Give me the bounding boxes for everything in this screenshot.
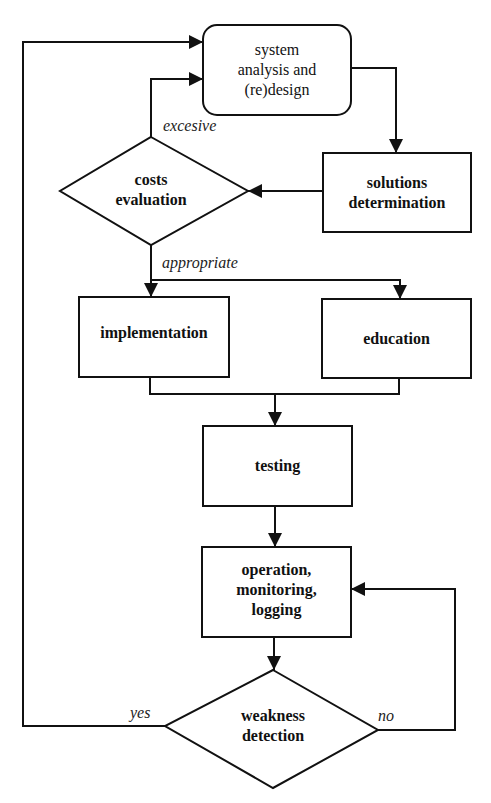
edge-weakness-to-operation-no [351, 589, 455, 730]
label-line: evaluation [115, 190, 186, 210]
label-line: determination [349, 193, 446, 213]
edge-label-excesive: excesive [163, 117, 216, 135]
label-weakness-detection: weakness detection [212, 703, 334, 749]
label-line: testing [255, 456, 300, 476]
edge-label-no: no [378, 707, 394, 725]
label-line: detection [241, 726, 305, 746]
label-line: analysis and [238, 60, 317, 80]
edge-label-appropriate: appropriate [162, 254, 238, 272]
label-education: education [322, 299, 471, 378]
label-line: solutions [349, 173, 446, 193]
label-line: monitoring, [236, 580, 316, 600]
edge-system-to-solutions [351, 68, 396, 153]
label-system-analysis: system analysis and (re)design [203, 25, 351, 115]
label-testing: testing [203, 426, 352, 506]
edge-label-yes: yes [130, 704, 150, 722]
label-line: (re)design [238, 80, 317, 100]
edge-merge-implementation-education [150, 377, 399, 394]
label-costs-evaluation: costs evaluation [90, 165, 212, 215]
label-solutions-determination: solutions determination [323, 153, 471, 232]
edge-weakness-to-system-yes [23, 42, 203, 726]
label-line: logging [236, 600, 316, 620]
label-implementation: implementation [79, 297, 229, 369]
label-line: costs [115, 170, 186, 190]
label-operation: operation, monitoring, logging [202, 547, 351, 633]
label-line: system [238, 40, 317, 60]
flowchart-canvas [0, 0, 491, 803]
label-line: operation, [236, 560, 316, 580]
label-line: education [363, 329, 430, 349]
label-line: implementation [100, 323, 208, 343]
label-line: weakness [241, 706, 305, 726]
